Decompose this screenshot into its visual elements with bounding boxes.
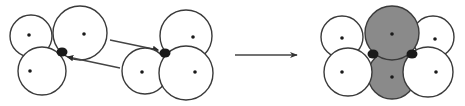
connector-arrow-left	[68, 57, 120, 68]
left-circle-group	[10, 6, 107, 95]
center-dot-icon	[140, 70, 144, 74]
center-dot-icon	[340, 70, 344, 74]
center-dot-icon	[82, 32, 86, 36]
junction-node	[368, 50, 379, 59]
center-dot-icon	[27, 33, 31, 37]
center-dot-icon	[433, 37, 437, 41]
merged-result-group	[321, 6, 454, 99]
junction-node	[407, 50, 418, 59]
center-dot-icon	[191, 35, 195, 39]
center-dot-icon	[340, 36, 344, 40]
center-dot-icon	[390, 75, 394, 79]
junction-node	[160, 49, 171, 58]
center-dot-icon	[390, 32, 394, 36]
center-dot-icon	[28, 69, 32, 73]
center-dot-icon	[193, 70, 197, 74]
junction-node	[57, 48, 68, 57]
circle-merge-diagram	[0, 0, 465, 106]
center-dot-icon	[434, 70, 438, 74]
right-circle-group	[122, 10, 213, 100]
circle	[324, 48, 372, 96]
